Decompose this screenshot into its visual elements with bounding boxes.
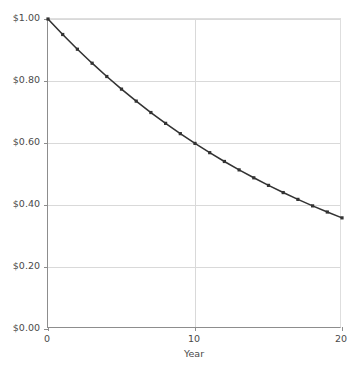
y-tick-label: $0.00 — [0, 323, 40, 333]
data-point-marker — [164, 122, 167, 125]
data-point-marker — [223, 160, 226, 163]
data-point-marker — [193, 142, 196, 145]
data-point-marker — [149, 111, 152, 114]
data-point-marker — [61, 33, 64, 36]
data-point-marker — [326, 210, 329, 213]
y-tick-label: $1.00 — [0, 13, 40, 23]
y-tick-label: $0.40 — [0, 199, 40, 209]
x-tick-label: 20 — [321, 334, 361, 344]
data-point-marker — [105, 75, 108, 78]
data-point-marker — [91, 62, 94, 65]
data-point-marker — [296, 198, 299, 201]
data-series-layer — [48, 19, 342, 329]
plot-area — [47, 18, 341, 328]
series-line-path — [48, 19, 342, 218]
x-tick-label: 10 — [174, 334, 214, 344]
data-point-marker — [46, 17, 49, 20]
data-point-marker — [120, 88, 123, 91]
data-point-marker — [340, 216, 343, 219]
data-point-marker — [252, 176, 255, 179]
x-tick-label: 0 — [27, 334, 67, 344]
data-point-marker — [282, 191, 285, 194]
series-markers — [46, 17, 343, 219]
data-point-marker — [311, 204, 314, 207]
data-point-marker — [179, 132, 182, 135]
chart-container: $0.00$0.20$0.40$0.60$0.80$1.00 01020 Yea… — [0, 0, 364, 368]
y-tick-label: $0.60 — [0, 137, 40, 147]
data-point-marker — [76, 48, 79, 51]
data-point-marker — [135, 100, 138, 103]
data-point-marker — [208, 151, 211, 154]
y-tick-label: $0.80 — [0, 75, 40, 85]
x-tick-mark — [342, 327, 343, 331]
y-tick-label: $0.20 — [0, 261, 40, 271]
x-axis-title: Year — [47, 349, 341, 359]
data-point-marker — [238, 168, 241, 171]
data-point-marker — [267, 184, 270, 187]
